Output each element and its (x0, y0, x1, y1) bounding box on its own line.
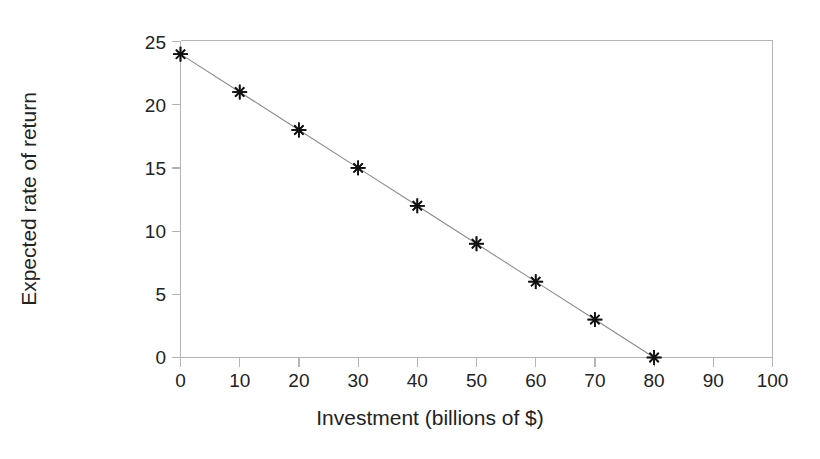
x-tick-label-20: 20 (288, 370, 309, 391)
x-tick-label-100: 100 (757, 370, 789, 391)
x-tick-label-70: 70 (584, 370, 605, 391)
x-tick-label-90: 90 (703, 370, 724, 391)
y-tick-label-15: 15 (145, 158, 166, 179)
x-tick-label-60: 60 (525, 370, 546, 391)
investment-demand-line-chart: 0 5 10 15 20 25 0 10 20 30 40 (0, 0, 820, 459)
y-tick-label-20: 20 (145, 95, 166, 116)
chart-container: 0 5 10 15 20 25 0 10 20 30 40 (0, 0, 820, 459)
y-axis-title: Expected rate of return (17, 92, 40, 306)
x-tick-label-40: 40 (407, 370, 428, 391)
y-tick-label-10: 10 (145, 221, 166, 242)
y-tick-label-25: 25 (145, 32, 166, 53)
x-tick-label-0: 0 (175, 370, 186, 391)
x-axis-title: Investment (billions of $) (316, 406, 544, 429)
x-tick-label-10: 10 (229, 370, 250, 391)
x-tick-label-30: 30 (348, 370, 369, 391)
y-tick-label-5: 5 (155, 284, 166, 305)
x-tick-label-50: 50 (466, 370, 487, 391)
x-tick-label-80: 80 (644, 370, 665, 391)
y-tick-label-0: 0 (155, 347, 166, 368)
